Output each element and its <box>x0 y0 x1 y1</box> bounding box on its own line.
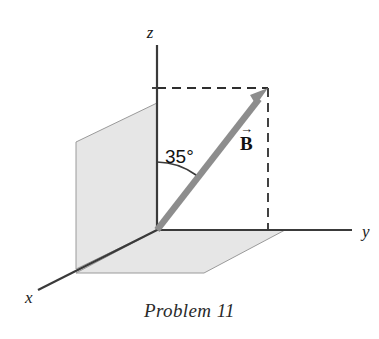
figure-caption: Problem 11 <box>0 300 379 322</box>
plane-group <box>76 103 285 273</box>
vector-diagram: z y x 35° → B <box>0 0 379 339</box>
figure-container: z y x 35° → B Problem 11 <box>0 0 379 339</box>
vector-b-label: B <box>240 133 253 154</box>
z-axis-label: z <box>146 23 154 42</box>
angle-value-label: 35° <box>165 146 194 167</box>
y-axis-label: y <box>360 222 370 241</box>
